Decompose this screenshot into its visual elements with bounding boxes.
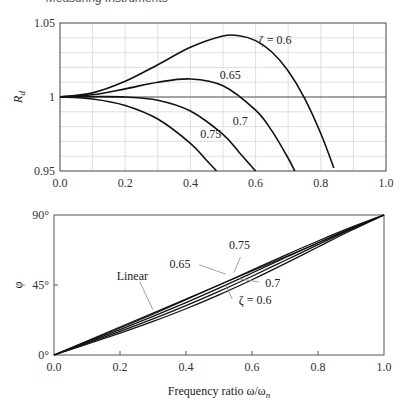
x-tick-label: 0.6: [248, 176, 263, 190]
x-tick-label: 0.8: [313, 176, 328, 190]
frequency-ratio-axis-label: Frequency ratio ω/ωn: [168, 384, 271, 400]
y-tick-label: 0°: [38, 348, 49, 362]
curve-label: ζ = 0.6: [259, 33, 292, 47]
leader-line: [234, 257, 241, 273]
curve-label: 0.7: [233, 114, 248, 128]
y-tick-label: 45°: [32, 278, 49, 292]
x-tick-label: 0.0: [53, 176, 68, 190]
bottom-y-tick-labels: 0°45°90°: [32, 208, 49, 362]
curve-label: Linear: [117, 269, 148, 283]
amplitude-curves: [60, 35, 334, 171]
phi-axis-label: φ: [11, 281, 25, 288]
amplitude-curve-3: [60, 97, 216, 171]
curve-label: 0.7: [265, 276, 280, 290]
x-tick-label: 0.6: [245, 360, 260, 374]
x-tick-label: 1.0: [379, 176, 394, 190]
curve-label: 0.75: [200, 127, 221, 141]
amplitude-ratio-plot: 0.00.20.40.60.81.0 0.9511.05 Rd ζ = 0.60…: [11, 16, 394, 190]
y-tick-label: 1: [49, 90, 55, 104]
x-tick-label: 0.8: [311, 360, 326, 374]
curve-label: 0.65: [170, 257, 191, 271]
leader-line: [140, 282, 153, 310]
y-tick-label: 0.95: [34, 164, 55, 178]
rd-axis-label: Rd: [11, 91, 27, 104]
x-tick-label: 1.0: [377, 360, 392, 374]
y-tick-label: 90°: [32, 208, 49, 222]
phase-plot: 0.00.20.40.60.81.0 0°45°90° φ Frequency …: [11, 208, 392, 400]
chart-canvas: 0.00.20.40.60.81.0 0.9511.05 Rd ζ = 0.60…: [0, 0, 408, 412]
phase-curves: [54, 215, 384, 355]
bottom-x-tick-labels: 0.00.20.40.60.81.0: [47, 360, 392, 374]
curve-label: ζ = 0.6: [239, 293, 272, 307]
x-tick-label: 0.4: [183, 176, 198, 190]
x-tick-label: 0.2: [118, 176, 133, 190]
x-tick-label: 0.4: [179, 360, 194, 374]
leader-line: [199, 265, 225, 274]
curve-label: 0.65: [220, 68, 241, 82]
y-tick-label: 1.05: [34, 16, 55, 30]
top-x-tick-labels: 0.00.20.40.60.81.0: [53, 176, 394, 190]
top-annotations: ζ = 0.60.650.70.75: [200, 33, 291, 142]
x-tick-label: 0.0: [47, 360, 62, 374]
x-tick-label: 0.2: [113, 360, 128, 374]
curve-label: 0.75: [229, 238, 250, 252]
amplitude-curve-0: [60, 35, 334, 168]
top-y-tick-labels: 0.9511.05: [34, 16, 55, 178]
bottom-tick-marks: [54, 285, 318, 355]
